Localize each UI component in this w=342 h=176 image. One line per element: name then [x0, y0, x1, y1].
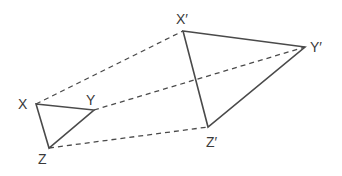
vertex-label-z-prime: Z′ — [206, 134, 218, 150]
dashed-line-x-to-x-prime — [36, 31, 183, 104]
triangle-xyz — [36, 104, 94, 148]
triangle-x-prime-y-prime-z-prime — [183, 31, 305, 127]
vertex-label-x-prime: X′ — [176, 11, 188, 27]
vertex-label-y-prime: Y′ — [310, 39, 322, 55]
dashed-line-y-to-y-prime — [94, 47, 305, 110]
vertex-label-x: X — [18, 96, 28, 112]
vertex-label-z: Z — [38, 151, 47, 167]
vertex-label-y: Y — [86, 92, 96, 108]
similar-triangles-diagram: X Y Z X′ Y′ Z′ — [0, 0, 342, 176]
dashed-line-z-to-z-prime — [49, 127, 208, 148]
